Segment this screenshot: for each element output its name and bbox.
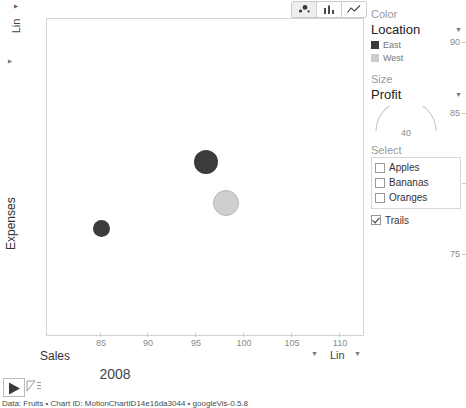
x-axis-title: Sales: [40, 349, 70, 363]
chart-type-toolbar: [291, 1, 367, 18]
x-axis-max-chevron-icon[interactable]: ▼: [311, 350, 318, 357]
x-axis-scale-chevron-icon[interactable]: ▼: [354, 350, 361, 357]
line-chart-button[interactable]: [342, 2, 366, 17]
bubble-oranges[interactable]: [213, 190, 239, 216]
x-axis-scale-label: Lin: [330, 349, 345, 361]
trails-label: Trails: [385, 215, 409, 226]
select-section-label: Select: [371, 144, 466, 156]
color-variable-value: Location: [371, 22, 420, 37]
x-axis-tick: 90: [128, 338, 168, 348]
y-axis-title: Expenses: [4, 160, 18, 250]
y-axis-scale-label: Lin: [10, 6, 22, 46]
legend-item-east[interactable]: East: [371, 39, 466, 51]
chevron-down-icon: ▼: [455, 86, 462, 103]
y-axis-min-chevron-icon[interactable]: ▼: [6, 58, 13, 65]
legend-swatch-west: [371, 54, 379, 62]
x-axis-tick: 110: [320, 338, 360, 348]
x-axis-tick: 100: [224, 338, 264, 348]
y-axis-tick: 75: [420, 249, 466, 259]
chevron-down-icon: ▼: [455, 21, 462, 38]
checkbox-bananas[interactable]: [375, 178, 385, 188]
bubble-apples[interactable]: [194, 150, 218, 174]
x-axis-tick: 95: [176, 338, 216, 348]
size-section-label: Size: [371, 73, 466, 85]
bar-chart-button[interactable]: [317, 2, 342, 17]
y-axis-scale-chevron-icon: ▼: [12, 3, 19, 10]
legend-label-west: West: [383, 53, 403, 63]
color-section-label: Color: [371, 8, 466, 20]
x-axis-tick-label: 90: [143, 338, 153, 348]
x-axis-tick-label: 110: [333, 338, 347, 348]
legend-swatch-east: [371, 41, 379, 49]
entity-select-list[interactable]: Apples Bananas Oranges: [371, 157, 461, 209]
select-item-apples[interactable]: Apples: [375, 160, 457, 175]
select-label-bananas: Bananas: [389, 177, 428, 188]
select-item-oranges[interactable]: Oranges: [375, 190, 457, 205]
motion-chart-app: Lin ▼ ▼ Expenses 90 85 80 75 85 90 95 10…: [0, 0, 466, 408]
play-button[interactable]: [3, 378, 25, 397]
x-axis-tick-label: 95: [191, 338, 201, 348]
bubble-chart-button[interactable]: [292, 2, 317, 17]
x-axis-tick-label: 105: [284, 338, 299, 348]
x-axis-tick: 85: [81, 338, 121, 348]
x-axis-scale-selector[interactable]: Lin: [330, 349, 345, 361]
size-gauge[interactable]: 40: [371, 106, 441, 140]
checkbox-apples[interactable]: [375, 163, 385, 173]
bubble-bananas[interactable]: [93, 220, 110, 237]
select-label-apples: Apples: [389, 162, 420, 173]
checkbox-trails[interactable]: [371, 215, 381, 225]
size-variable-select[interactable]: Profit ▼: [371, 86, 466, 103]
plot-area[interactable]: [46, 18, 364, 336]
size-gauge-value: 40: [371, 128, 441, 138]
y-axis-scale-selector[interactable]: Lin ▼: [6, 4, 24, 64]
x-axis-tick-label: 100: [236, 338, 251, 348]
select-item-bananas[interactable]: Bananas: [375, 175, 457, 190]
legend-label-east: East: [383, 40, 401, 50]
controls-sidebar: Color Location ▼ East West Size Profit ▼…: [371, 8, 466, 228]
playback-controls: [0, 374, 466, 400]
x-axis-tick: 105: [272, 338, 312, 348]
color-variable-select[interactable]: Location ▼: [371, 21, 466, 38]
trails-toggle[interactable]: Trails: [371, 212, 466, 228]
size-variable-value: Profit: [371, 87, 401, 102]
select-label-oranges: Oranges: [389, 192, 427, 203]
playback-speed-button[interactable]: [26, 378, 44, 397]
checkbox-oranges[interactable]: [375, 193, 385, 203]
chart-footer-caption: Data: Fruits • Chart ID: MotionChartID14…: [2, 399, 248, 408]
legend-item-west[interactable]: West: [371, 52, 466, 64]
x-axis-tick-label: 85: [96, 338, 106, 348]
